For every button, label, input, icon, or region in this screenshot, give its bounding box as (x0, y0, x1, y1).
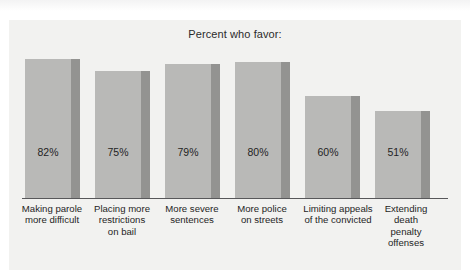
bar[interactable]: 51% (375, 111, 430, 198)
bar-value-label: 60% (305, 146, 351, 158)
category-labels-row: Making parole more difficult Placing mor… (22, 203, 448, 265)
bar-chart-panel: Percent who favor: 82% 75% 79% 80% (9, 20, 461, 270)
label-line: restrictions (89, 214, 155, 225)
bar-slot: 80% (235, 28, 290, 198)
bar[interactable]: 82% (25, 59, 80, 198)
bar-edge-highlight (211, 64, 220, 198)
bar[interactable]: 80% (235, 62, 290, 198)
bar-edge-highlight (281, 62, 290, 198)
category-label-placing-more-restrictions-on-bail: Placing more restrictions on bail (89, 203, 155, 237)
plot-area: 82% 75% 79% 80% 60% (22, 28, 448, 198)
x-axis-line (22, 198, 448, 199)
category-label-more-police-on-streets: More police on streets (229, 203, 295, 226)
label-line: Making parole (19, 203, 85, 214)
bar-value-label: 51% (375, 146, 421, 158)
label-line: sentences (159, 214, 225, 225)
bar[interactable]: 60% (305, 96, 360, 198)
bar[interactable]: 79% (165, 64, 220, 198)
label-line: penalty (373, 226, 439, 237)
category-label-more-severe-sentences: More severe sentences (159, 203, 225, 226)
label-line: death (373, 214, 439, 225)
label-line: on streets (229, 214, 295, 225)
label-line: Limiting appeals (297, 203, 379, 214)
bar-edge-highlight (351, 96, 360, 198)
bar-value-label: 82% (25, 146, 71, 158)
label-line: More police (229, 203, 295, 214)
bar-edge-highlight (141, 71, 150, 199)
clipped-text-sliver (0, 0, 470, 11)
bar[interactable]: 75% (95, 71, 150, 199)
bar-value-label: 75% (95, 146, 141, 158)
bar-value-label: 80% (235, 146, 281, 158)
bar-edge-highlight (71, 59, 80, 198)
bar-slot: 60% (305, 28, 360, 198)
bar-slot: 79% (165, 28, 220, 198)
label-line: Placing more (89, 203, 155, 214)
label-line: on bail (89, 226, 155, 237)
bar-slot: 75% (95, 28, 150, 198)
bar-slot: 51% (375, 28, 430, 198)
category-label-making-parole-more-difficult: Making parole more difficult (19, 203, 85, 226)
category-label-extending-death-penalty-offenses: Extending death penalty offenses (373, 203, 439, 249)
label-line: more difficult (19, 214, 85, 225)
bar-edge-highlight (421, 111, 430, 198)
label-line: of the convicted (297, 214, 379, 225)
label-line: More severe (159, 203, 225, 214)
label-line: Extending (373, 203, 439, 214)
category-label-limiting-appeals-of-the-convicted: Limiting appeals of the convicted (297, 203, 379, 226)
bar-value-label: 79% (165, 146, 211, 158)
label-line: offenses (373, 237, 439, 248)
bar-slot: 82% (25, 28, 80, 198)
